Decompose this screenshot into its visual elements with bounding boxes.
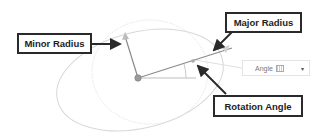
guide-ellipse <box>92 20 208 124</box>
minor-radius-callout: Minor Radius <box>17 33 92 54</box>
rotation-point <box>191 59 195 63</box>
chevron-down-icon[interactable]: ▾ <box>301 65 304 72</box>
major-radius-line <box>138 48 232 78</box>
minor-radius-line <box>125 36 138 78</box>
rotation-angle-callout: Rotation Angle <box>213 95 303 117</box>
grid-icon <box>276 65 284 72</box>
ellipse-diagram: Minor Radius Major Radius Rotation Angle… <box>0 0 315 139</box>
center-point <box>135 75 141 81</box>
rotation-angle-arc <box>184 64 186 78</box>
rotation-angle-arrow <box>198 66 226 94</box>
major-radius-callout: Major Radius <box>225 12 302 33</box>
angle-input-field[interactable]: Angle ▾ <box>242 60 310 76</box>
angle-label: Angle <box>255 65 273 72</box>
